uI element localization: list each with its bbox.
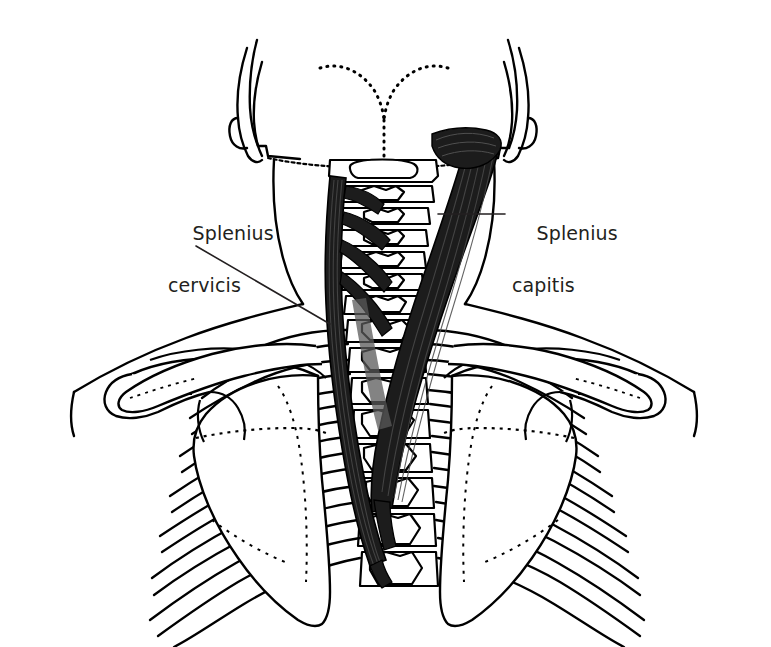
vertebra-c1-arch	[350, 160, 417, 179]
anatomy-figure-page: Splenius cervicis Splenius capitis	[0, 0, 771, 647]
vertebra-c3-spinous	[364, 208, 404, 222]
label-cervicis-line1: Splenius	[193, 222, 274, 244]
label-capitis-line2: capitis	[512, 272, 618, 298]
label-splenius-capitis: Splenius capitis	[512, 194, 618, 350]
label-cervicis-line2: cervicis	[168, 272, 274, 298]
label-splenius-cervicis: Splenius cervicis	[168, 194, 274, 350]
anatomical-illustration	[0, 0, 771, 647]
label-capitis-line1: Splenius	[537, 222, 618, 244]
